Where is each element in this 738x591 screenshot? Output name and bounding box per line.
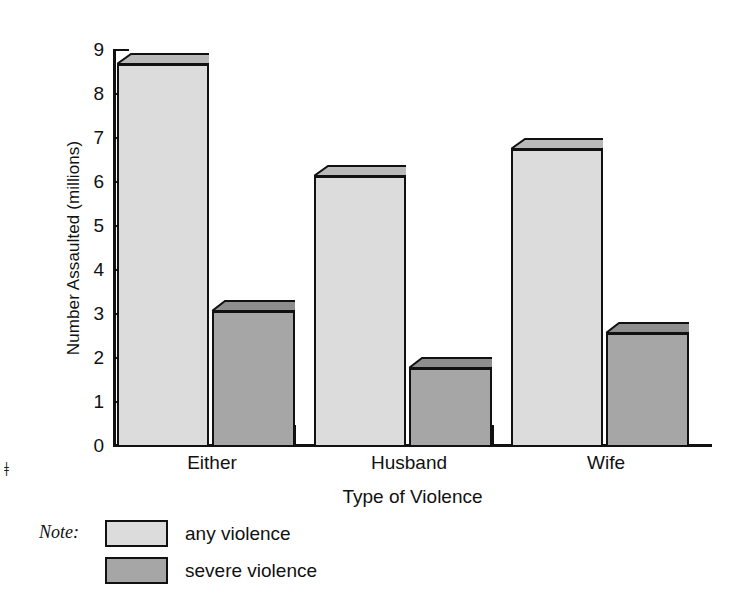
bar-wife-any-violence[interactable] <box>511 135 603 447</box>
plot-area: Number Assaulted (millions) 9 8 7 6 5 4 … <box>0 0 738 591</box>
legend-note-label: Note: <box>39 522 79 543</box>
bar-wife-severe-violence[interactable] <box>606 319 689 447</box>
y-tick-label-8: 8 <box>78 84 104 103</box>
x-category-label-husband: Husband <box>329 452 489 474</box>
y-tick-label-9: 9 <box>78 40 104 59</box>
y-tick-label-2: 2 <box>78 348 104 367</box>
x-category-label-wife: Wife <box>526 452 686 474</box>
y-tick-label-6: 6 <box>78 172 104 191</box>
bar-husband-severe-violence[interactable] <box>409 354 492 447</box>
bar-either-any-violence[interactable] <box>117 49 209 447</box>
legend-swatch-icon-severe-violence <box>105 557 168 584</box>
bar-front-face <box>314 176 406 447</box>
x-axis-separator-2 <box>492 425 494 445</box>
legend-label-any-violence: any violence <box>185 522 291 545</box>
y-tick-label-3: 3 <box>78 304 104 323</box>
bar-chart-figure: ǂ Number Assaulted (millions) 9 8 7 6 5 … <box>0 0 738 591</box>
legend-swatch-icon-any-violence <box>105 520 168 547</box>
x-axis-title: Type of Violence <box>113 486 712 508</box>
bar-front-face <box>117 64 209 447</box>
y-axis-line <box>113 49 116 446</box>
bar-front-face <box>511 149 603 447</box>
bar-front-face <box>212 311 295 447</box>
bar-front-face <box>409 368 492 447</box>
bar-husband-any-violence[interactable] <box>314 162 406 447</box>
legend-label-severe-violence: severe violence <box>185 559 317 582</box>
x-category-label-either: Either <box>132 452 292 474</box>
bar-either-severe-violence[interactable] <box>212 297 295 447</box>
y-tick-label-7: 7 <box>78 128 104 147</box>
y-tick-label-5: 5 <box>78 216 104 235</box>
y-tick-label-4: 4 <box>78 260 104 279</box>
y-tick-label-0: 0 <box>78 436 104 455</box>
bar-front-face <box>606 333 689 447</box>
y-tick-label-1: 1 <box>78 392 104 411</box>
